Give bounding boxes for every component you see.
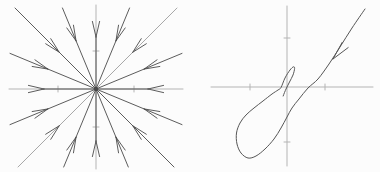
ray-arrowhead-wing xyxy=(148,85,164,89)
ray-arrowhead-wing xyxy=(28,85,44,89)
ray-arrowhead-wing xyxy=(96,141,100,157)
ray-arrowhead-wing xyxy=(148,89,164,93)
ray-arrowhead-wing xyxy=(28,89,44,93)
trajectory-arrowhead-wing xyxy=(333,42,342,59)
trajectory-path xyxy=(236,9,365,158)
ray-arrowhead-wing xyxy=(92,141,96,157)
spiral-plot xyxy=(211,6,373,166)
ray-arrowhead-wing xyxy=(96,21,100,37)
ray-line xyxy=(15,8,96,89)
ray-line xyxy=(96,8,177,89)
center-point xyxy=(94,87,98,91)
star-node-plot xyxy=(9,5,183,169)
ray-arrowhead-wing xyxy=(92,21,96,37)
figure-canvas xyxy=(0,0,380,172)
phase-portraits-svg xyxy=(0,0,380,172)
ray-line xyxy=(96,89,174,167)
ray-line xyxy=(18,89,96,167)
trajectory-arrowhead-wing xyxy=(333,48,348,59)
